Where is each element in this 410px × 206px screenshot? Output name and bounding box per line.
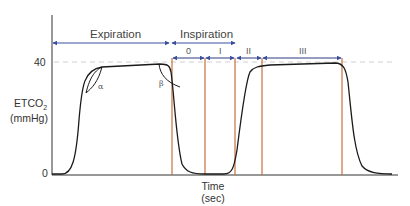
- x-axis-label: Time: [202, 180, 225, 192]
- x-axis-unit-label: (sec): [201, 192, 224, 204]
- y-axis-unit-label: (mmHg): [10, 112, 48, 124]
- phase-2-label: II: [246, 46, 251, 56]
- y-axis-label: ETCO2: [14, 97, 47, 111]
- phase-boundary-lines: [172, 58, 342, 175]
- capnogram-waveform: [52, 63, 392, 174]
- inspiration-label: Inspiration: [180, 28, 233, 40]
- alpha-label: α: [98, 82, 104, 91]
- capnogram-diagram: α β Expiration Inspiration 0 I II III 40…: [0, 0, 410, 206]
- y-tick-40: 40: [34, 56, 46, 68]
- phase-0-label: 0: [186, 46, 191, 56]
- y-tick-0: 0: [42, 167, 48, 179]
- phase-3-label: III: [299, 46, 307, 56]
- phase-1-label: I: [219, 46, 222, 56]
- beta-label: β: [159, 79, 164, 88]
- expiration-label: Expiration: [90, 28, 141, 40]
